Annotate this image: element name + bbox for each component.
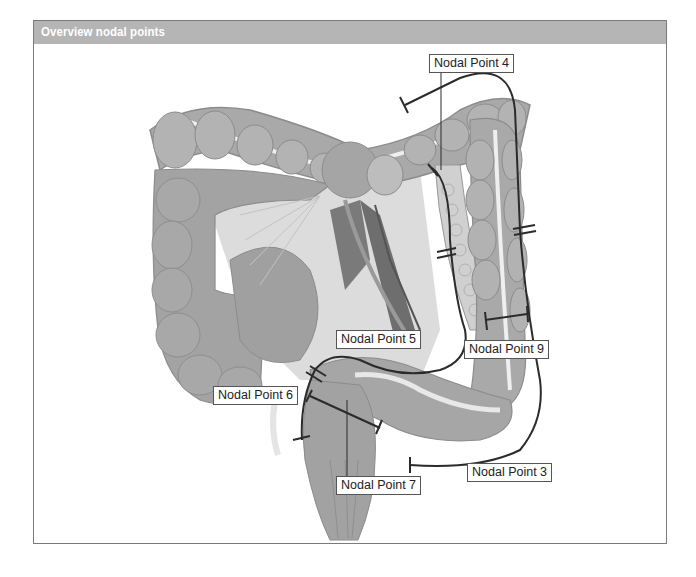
nodal-point-5-label: Nodal Point 5 bbox=[336, 330, 421, 349]
nodal-point-6-label: Nodal Point 6 bbox=[213, 386, 298, 405]
nodal-point-4-label: Nodal Point 4 bbox=[429, 54, 514, 73]
nodal-point-9-label: Nodal Point 9 bbox=[464, 340, 549, 359]
nodal-point-3-label: Nodal Point 3 bbox=[467, 463, 552, 482]
nodal-point-7-label: Nodal Point 7 bbox=[336, 476, 421, 495]
